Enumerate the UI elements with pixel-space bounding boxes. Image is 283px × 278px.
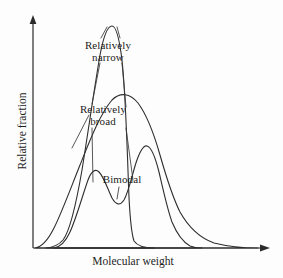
- x-axis-arrowhead: [260, 245, 270, 252]
- leader-bimodal-down: [117, 187, 119, 199]
- curve-label-bimodal-text: Bimodal: [92, 174, 152, 186]
- axes-group: [30, 15, 270, 251]
- curve-label-relatively-narrow: Relatively narrow: [73, 40, 143, 63]
- curve-label-broad-line2: broad: [66, 116, 140, 128]
- curve-label-broad-line1: Relatively: [66, 104, 140, 116]
- figure-page: Relatively narrow Relatively broad Bimod…: [0, 0, 283, 278]
- curve-label-narrow-line2: narrow: [73, 52, 143, 64]
- y-axis-label: Relative fraction: [16, 56, 28, 206]
- leader-narrow-down-left: [92, 63, 100, 104]
- leader-narrow-down-right: [122, 63, 126, 107]
- curve-label-bimodal: Bimodal: [92, 174, 152, 186]
- curve-label-relatively-broad: Relatively broad: [66, 104, 140, 127]
- curve-label-narrow-line1: Relatively: [73, 40, 143, 52]
- x-axis-label: Molecular weight: [63, 255, 203, 267]
- y-axis-arrowhead: [30, 15, 37, 24]
- curves-group: [35, 26, 258, 248]
